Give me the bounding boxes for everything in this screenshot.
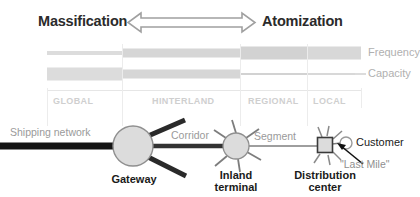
- segment-label: Segment: [254, 131, 296, 142]
- distribution-center-node[interactable]: [318, 138, 333, 153]
- dc-spoke-nw: [318, 127, 322, 137]
- last-mile-label: "Last Mile": [340, 159, 389, 170]
- inland-spoke-n: [232, 120, 236, 133]
- inland-terminal-label-line1: Inland: [206, 170, 266, 181]
- customer-label: Customer: [356, 137, 404, 148]
- shipping-network-label: Shipping network: [10, 127, 91, 138]
- inland-spoke-nw: [214, 130, 226, 138]
- corridor-label: Corridor: [171, 130, 209, 141]
- dc-spoke-ne: [333, 131, 342, 139]
- dc-spoke-n: [327, 126, 329, 136]
- dc-spoke-sw: [314, 154, 320, 163]
- distribution-center-label-line1: Distribution: [285, 170, 365, 181]
- gateway-label: Gateway: [103, 174, 165, 185]
- distribution-center-label-line2: center: [285, 182, 365, 193]
- inland-spoke-sw: [215, 156, 227, 166]
- inland-terminal-node[interactable]: [223, 133, 249, 159]
- inland-spoke-se: [247, 152, 261, 160]
- inland-terminal-label-line2: terminal: [206, 182, 266, 193]
- dc-spoke-s: [328, 155, 330, 165]
- gateway-node[interactable]: [113, 126, 153, 166]
